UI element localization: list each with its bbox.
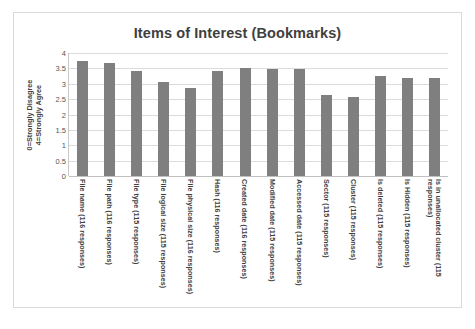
bar-slot: [367, 53, 394, 176]
x-tick-slot: Created date (116 responses): [231, 179, 258, 314]
bar: [131, 71, 142, 176]
bar-slot: [150, 53, 177, 176]
bar-slot: [421, 53, 448, 176]
bar-slot: [313, 53, 340, 176]
bar: [267, 69, 278, 176]
bar: [104, 63, 115, 176]
x-tick-label: Modified date (115 responses): [267, 179, 275, 311]
x-tick-label: Is deleted (115 responses): [376, 179, 384, 311]
x-tick-slot: Accessed date (115 responses): [285, 179, 312, 314]
y-tick-label: 3.5: [56, 64, 66, 73]
x-tick-label: Created date (116 responses): [240, 179, 248, 311]
x-tick-label: File logical size (115 responses): [159, 179, 167, 311]
y-tick-label: 3: [62, 79, 66, 88]
bar: [375, 76, 386, 176]
x-tick-label: File path (116 responses): [105, 179, 113, 311]
chart-title: Items of Interest (Bookmarks): [14, 25, 461, 41]
x-tick-slot: Modified date (115 responses): [258, 179, 285, 314]
x-tick-slot: File type (115 responses): [122, 179, 149, 314]
x-tick-label: File name (116 responses): [77, 179, 85, 311]
x-tick-label: File physical size (116 responses): [186, 179, 194, 311]
bar: [321, 95, 332, 176]
y-tick-label: 4: [62, 49, 66, 58]
bar-slot: [123, 53, 150, 176]
bar-slot: [394, 53, 421, 176]
bar-slot: [286, 53, 313, 176]
x-tick-label: Hash (116 responses): [213, 179, 221, 311]
y-tick-label: 1.5: [56, 125, 66, 134]
bar: [402, 78, 413, 176]
bar-slot: [259, 53, 286, 176]
chart-frame: Items of Interest (Bookmarks) 0=Strongly…: [13, 12, 462, 308]
bar-slot: [177, 53, 204, 176]
y-tick-label: 0: [62, 172, 66, 181]
y-tick-label: 2.5: [56, 95, 66, 104]
gridline: [69, 176, 448, 177]
y-tick-label: 1: [62, 141, 66, 150]
x-tick-slot: File logical size (115 responses): [149, 179, 176, 314]
bar: [212, 71, 223, 176]
bar: [429, 78, 440, 176]
x-tick-slot: File path (116 responses): [95, 179, 122, 314]
y-axis-title-line-1: 0=Strongly Disagree: [25, 79, 34, 150]
bar: [185, 88, 196, 176]
bar-slot: [204, 53, 231, 176]
bar: [158, 82, 169, 176]
y-axis-title: 0=Strongly Disagree 4=Strongly Agree: [25, 53, 43, 176]
x-tick-slot: Is in unallocated cluster (115 responses…: [421, 179, 448, 314]
x-tick-slot: File name (116 responses): [68, 179, 95, 314]
x-tick-label: Cluster (115 responses): [349, 179, 357, 311]
y-tick-label: 0.5: [56, 156, 66, 165]
bar: [240, 68, 251, 176]
x-tick-slot: File physical size (116 responses): [177, 179, 204, 314]
x-tick-label: Accessed date (115 responses): [294, 179, 302, 311]
x-tick-slot: Is Hidden (115 responses): [394, 179, 421, 314]
x-tick-slot: Cluster (115 responses): [339, 179, 366, 314]
bar-slot: [340, 53, 367, 176]
bar: [77, 61, 88, 176]
y-axis-tick-labels: 43.532.521.510.50: [44, 53, 66, 176]
x-tick-label: Is in unallocated cluster (115 responses…: [426, 179, 443, 311]
bar-slot: [96, 53, 123, 176]
plot-area: [68, 53, 448, 176]
x-tick-label: Is Hidden (115 responses): [403, 179, 411, 311]
x-tick-label: Sector (115 responses): [322, 179, 330, 311]
y-axis-title-line-2: 4=Strongly Agree: [34, 84, 43, 144]
x-axis-tick-labels: File name (116 responses)File path (116 …: [68, 179, 448, 314]
x-tick-slot: Sector (115 responses): [312, 179, 339, 314]
bar: [294, 69, 305, 176]
x-tick-slot: Is deleted (115 responses): [367, 179, 394, 314]
bar-series: [69, 53, 448, 176]
y-tick-label: 2: [62, 110, 66, 119]
x-tick-slot: Hash (116 responses): [204, 179, 231, 314]
bar-slot: [69, 53, 96, 176]
bar: [348, 97, 359, 176]
plot-inner: [68, 53, 448, 176]
x-tick-label: File type (115 responses): [132, 179, 140, 311]
bar-slot: [231, 53, 258, 176]
